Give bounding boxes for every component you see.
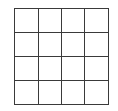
grid-cell bbox=[38, 32, 61, 56]
grid-cell bbox=[61, 32, 84, 56]
grid-cell bbox=[14, 32, 38, 56]
grid-cell bbox=[61, 8, 84, 32]
grid-cell bbox=[38, 80, 61, 104]
grid-cell bbox=[61, 80, 84, 104]
grid-cell bbox=[61, 56, 84, 80]
grid-cell bbox=[84, 56, 108, 80]
grid-cell bbox=[14, 80, 38, 104]
grid-cell bbox=[84, 8, 108, 32]
grid-cell bbox=[14, 56, 38, 80]
grid-cell bbox=[38, 56, 61, 80]
grid-cell bbox=[84, 80, 108, 104]
grid-4x4 bbox=[14, 8, 109, 105]
grid-cell bbox=[38, 8, 61, 32]
grid-cell bbox=[84, 32, 108, 56]
grid-cell bbox=[14, 8, 38, 32]
